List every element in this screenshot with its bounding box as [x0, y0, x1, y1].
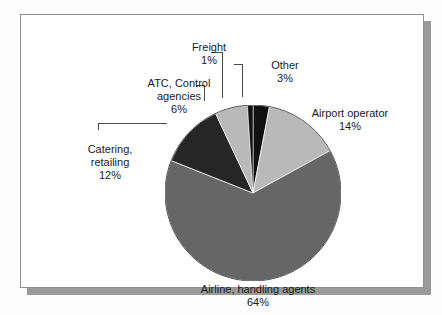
slice-label-catering-pct: 12%: [69, 169, 151, 182]
slice-label-airport-operator: Airport operator 14%: [291, 107, 409, 133]
slice-label-atc-control-agencies: ATC, Control agencies 6%: [133, 77, 225, 116]
slice-label-other-text: Other: [271, 59, 299, 71]
slice-label-airline-pct: 64%: [173, 296, 343, 309]
slice-label-atc-pct: 6%: [133, 103, 225, 116]
slice-label-other-pct: 3%: [258, 72, 312, 85]
slice-label-airline-text: Airline, handling agents: [201, 283, 315, 295]
figure-frame: Freight 1% Other 3% ATC, Control agencie…: [20, 14, 424, 288]
slice-label-catering-text-line1: Catering,: [88, 143, 133, 155]
slice-label-other: Other 3%: [258, 59, 312, 85]
slice-label-freight-pct: 1%: [177, 54, 241, 67]
slice-label-airport-operator-pct: 14%: [291, 120, 409, 133]
slice-label-atc-text-line2: agencies: [133, 90, 225, 103]
slice-label-catering-retailing: Catering, retailing 12%: [69, 143, 151, 182]
slice-label-catering-text-line2: retailing: [69, 156, 151, 169]
slice-label-airline-handling-agents: Airline, handling agents 64%: [173, 283, 343, 309]
slice-label-airport-operator-text: Airport operator: [312, 107, 388, 119]
chart-page: Freight 1% Other 3% ATC, Control agencie…: [0, 0, 442, 315]
slice-label-freight-text: Freight: [192, 41, 226, 53]
slice-label-atc-text-line1: ATC, Control: [148, 77, 211, 89]
slice-label-freight: Freight 1%: [177, 41, 241, 67]
leader-line-other: [234, 64, 242, 97]
leader-line-catering: [98, 123, 167, 130]
